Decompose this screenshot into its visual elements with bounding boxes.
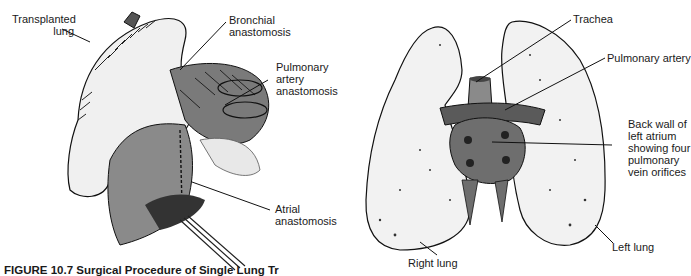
label-atrial-anastomosis: Atrial anastomosis [275, 203, 337, 227]
label-transplanted-lung: Transplanted lung [12, 13, 74, 37]
label-line: Pulmonary artery [607, 52, 691, 64]
label-line: Bronchial [229, 14, 291, 26]
label-line: anastomosis [276, 85, 338, 97]
label-line: Left lung [612, 241, 654, 253]
label-right-lung: Right lung [408, 257, 458, 269]
label-line: Pulmonary [276, 61, 338, 73]
label-line: Trachea [573, 13, 613, 25]
label-line: Back wall of [628, 118, 690, 130]
label-line: anastomosis [229, 26, 291, 38]
label-back-wall-left-atrium: Back wall of left atrium showing four pu… [628, 118, 690, 178]
label-bronchial-anastomosis: Bronchial anastomosis [229, 14, 291, 38]
label-trachea: Trachea [573, 13, 613, 25]
label-line: artery [276, 73, 338, 85]
label-line: vein orifices [628, 166, 690, 178]
label-line: Transplanted [12, 13, 74, 25]
figure-caption: FIGURE 10.7 Surgical Procedure of Single… [4, 264, 279, 276]
label-pulmonary-artery-anastomosis: Pulmonary artery anastomosis [276, 61, 338, 97]
lungs-drawing [366, 21, 605, 250]
label-line: anastomosis [275, 215, 337, 227]
label-line: pulmonary [628, 154, 690, 166]
label-line: left atrium [628, 130, 690, 142]
label-line: lung [12, 25, 74, 37]
label-line: showing four [628, 142, 690, 154]
label-line: Atrial [275, 203, 337, 215]
label-left-lung: Left lung [612, 241, 654, 253]
label-line: Right lung [408, 257, 458, 269]
transplanted-lung-drawing [68, 12, 269, 270]
label-pulmonary-artery: Pulmonary artery [607, 52, 691, 64]
